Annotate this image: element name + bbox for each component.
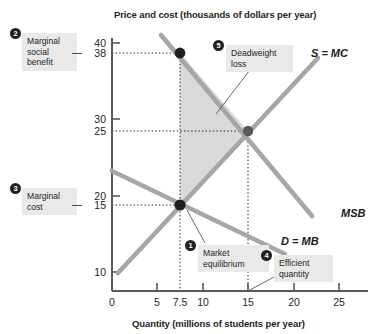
annotation-badge-4: 4 (261, 250, 272, 261)
x-tick-label-10: 10 (190, 296, 216, 308)
x-tick-label-25: 25 (326, 296, 352, 308)
annotation-badge-1: 1 (185, 240, 196, 251)
y-tick-label-30: 30 (84, 113, 106, 125)
curve-label-msb: MSB (341, 207, 365, 219)
y-tick-label-25: 25 (84, 125, 106, 137)
annotation-market-equilibrium: Market equilibrium (198, 245, 269, 272)
y-tick-label-38: 38 (84, 47, 106, 59)
point-efficient-quantity (243, 126, 253, 136)
annotation-efficient-quantity: Efficient quantity (274, 255, 333, 282)
point-marginal-social-benefit (175, 48, 186, 59)
annotation-deadweight-loss: Deadweight loss (226, 45, 293, 72)
annotation-badge-5: 5 (213, 40, 224, 51)
y-tick-label-15: 15 (84, 199, 106, 211)
annotation-marginal-social-benefit: Marginal social benefit (22, 33, 77, 71)
chart-title: Price and cost (thousands of dollars per… (114, 9, 316, 20)
y-tick-label-10: 10 (84, 266, 106, 278)
leader-line-marginal-cost (72, 205, 82, 206)
x-axis-title: Quantity (millions of students per year) (132, 318, 305, 329)
x-tick-label-0: 0 (99, 296, 125, 308)
leader-line-efficient-quantity (248, 277, 274, 291)
x-tick-label-15: 15 (235, 296, 261, 308)
x-tick-label-20: 20 (281, 296, 307, 308)
leader-line-deadweight-loss (216, 66, 253, 114)
curve-label-demand: D = MB (281, 235, 319, 247)
point-market-equilibrium (174, 199, 185, 210)
leader-line-marginal-social-benefit (72, 53, 82, 54)
annotation-badge-2: 2 (10, 28, 21, 39)
annotation-badge-3: 3 (10, 183, 21, 194)
annotation-marginal-cost: Marginal cost (22, 188, 77, 215)
economics-chart-figure: Price and cost (thousands of dollars per… (0, 0, 376, 334)
curve-label-supply: S = MC (311, 47, 348, 59)
